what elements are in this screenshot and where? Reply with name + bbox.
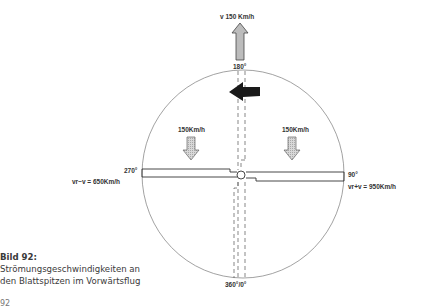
right-inflow-arrow-icon [284,137,300,160]
left-inflow-arrow-icon [183,137,199,160]
angle-label-360-0: 360°/0° [225,281,247,288]
angle-label-180: 180° [233,63,247,70]
rotor-hub [237,171,245,179]
page-number: 92 [0,299,10,307]
left-inflow-label: 150Km/h [178,126,205,133]
caption-line-1: Strömungsgeschwindigkeiten an [0,263,200,275]
caption-line-2: den Blattspitzen im Vorwärtsflug [0,275,200,287]
right-inflow-label: 150Km/h [282,126,309,133]
rotation-direction-arrow-icon [229,82,260,101]
caption-title: Bild 92: [0,251,200,263]
advancing-tip-speed-label: vr+v = 950Km/h [348,183,396,190]
flight-speed-label: v 150 Km/h [220,13,254,20]
angle-label-270: 270° [124,167,138,174]
flight-direction-arrow-icon [232,23,248,60]
figure-caption: Bild 92: Strömungsgeschwindigkeiten an d… [0,251,200,287]
retreating-tip-speed-label: vr−v = 650Km/h [72,178,120,185]
angle-label-90: 90° [348,171,358,178]
